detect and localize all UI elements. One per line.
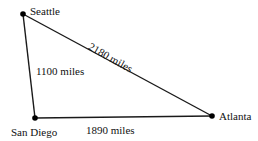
- triangle-diagram-canvas: Seattle San Diego Atlanta 1100 miles 218…: [0, 0, 258, 141]
- vertex-label-atlanta: Atlanta: [219, 111, 251, 122]
- vertex-dot-atlanta: [209, 113, 215, 119]
- edge-sandiego-atlanta: [35, 116, 212, 118]
- vertex-dot-seattle: [20, 11, 26, 17]
- edge-label-seattle-san-diego: 1100 miles: [36, 66, 84, 77]
- edge-seattle-sandiego: [23, 14, 35, 118]
- vertex-label-san-diego: San Diego: [11, 127, 57, 138]
- edge-label-san-diego-atlanta: 1890 miles: [86, 125, 135, 136]
- vertex-label-seattle: Seattle: [30, 6, 60, 17]
- vertex-dot-sandiego: [32, 115, 38, 121]
